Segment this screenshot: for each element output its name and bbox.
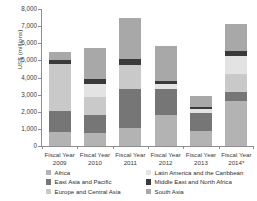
y-tick-label: 7,000 — [3, 23, 37, 29]
legend-item[interactable]: Middle East and North Africa — [146, 177, 243, 186]
bar-segment — [190, 131, 212, 146]
bar-segment — [190, 96, 212, 107]
bar-segment — [225, 101, 247, 146]
bar-segment — [84, 115, 106, 133]
x-tick-label: Fiscal Year2014* — [214, 151, 257, 166]
y-tick-mark — [38, 60, 41, 61]
y-tick-mark — [38, 112, 41, 113]
legend-item[interactable]: East Asia and Pacific — [46, 177, 121, 186]
y-tick-mark — [38, 26, 41, 27]
bar-segment — [119, 89, 141, 128]
y-tick-mark — [38, 129, 41, 130]
legend-swatch-icon — [146, 170, 151, 175]
bar-segment — [155, 46, 177, 81]
x-tick-mark — [77, 146, 78, 149]
legend-label: Africa — [55, 169, 71, 176]
legend-column-left: AfricaEast Asia and PacificEurope and Ce… — [46, 168, 121, 196]
bar-segment — [84, 84, 106, 97]
legend-column-right: Latin America and the CaribbeanMiddle Ea… — [146, 168, 243, 196]
bar-segment — [225, 24, 247, 51]
bar-segment — [49, 132, 71, 146]
bar-segment — [84, 48, 106, 80]
bar-segment — [119, 18, 141, 59]
y-tick-mark — [38, 43, 41, 44]
bar-segment — [84, 133, 106, 146]
x-label-line1: Fiscal Year — [221, 151, 251, 158]
bar-3[interactable] — [155, 46, 177, 146]
x-tick-mark — [253, 146, 254, 149]
bar-segment — [119, 128, 141, 146]
legend-swatch-icon — [46, 179, 51, 184]
bar-segment — [225, 92, 247, 101]
bar-segment — [225, 74, 247, 92]
bar-segment — [190, 113, 212, 131]
legend-label: Latin America and the Caribbean — [155, 169, 244, 176]
legend-swatch-icon — [146, 179, 151, 184]
bar-4[interactable] — [190, 96, 212, 146]
y-tick-mark — [38, 146, 41, 147]
bar-1[interactable] — [84, 48, 106, 146]
y-tick-mark — [38, 95, 41, 96]
x-label-line1: Fiscal Year — [45, 151, 75, 158]
legend-item[interactable]: Latin America and the Caribbean — [146, 168, 243, 177]
stacked-bar-chart: US$ (millions) 8,0007,0006,0005,0004,000… — [0, 0, 257, 201]
y-axis-title: US$ (millions) — [16, 5, 23, 95]
y-tick-mark — [38, 9, 41, 10]
x-label-line1: Fiscal Year — [151, 151, 181, 158]
legend-swatch-icon — [146, 189, 151, 194]
legend-item[interactable]: Europe and Central Asia — [46, 187, 121, 196]
bar-segment — [49, 52, 71, 61]
y-tick-mark — [38, 78, 41, 79]
legend-swatch-icon — [46, 189, 51, 194]
x-label-line1: Fiscal Year — [115, 151, 145, 158]
legend-label: East Asia and Pacific — [55, 178, 112, 185]
legend-item[interactable]: South Asia — [146, 187, 243, 196]
bar-segment — [49, 111, 71, 132]
x-tick-mark — [183, 146, 184, 149]
y-axis-line — [41, 9, 42, 147]
chart-legend: AfricaEast Asia and PacificEurope and Ce… — [41, 168, 255, 198]
x-tick-mark — [148, 146, 149, 149]
y-tick-label: 0 — [3, 143, 37, 149]
bar-segment — [84, 97, 106, 115]
x-label-line1: Fiscal Year — [186, 151, 216, 158]
y-tick-label: 3,000 — [3, 92, 37, 98]
bar-5[interactable] — [225, 24, 247, 146]
legend-item[interactable]: Africa — [46, 168, 121, 177]
bar-segment — [49, 64, 71, 111]
legend-label: South Asia — [155, 188, 184, 195]
x-label-line1: Fiscal Year — [80, 151, 110, 158]
x-tick-mark — [42, 146, 43, 149]
bar-segment — [155, 89, 177, 116]
bar-segment — [155, 115, 177, 146]
bar-segment — [119, 65, 141, 89]
x-label-line2: 2014* — [214, 159, 257, 167]
legend-label: Europe and Central Asia — [55, 188, 121, 195]
bar-2[interactable] — [119, 18, 141, 146]
x-axis-line — [41, 146, 253, 147]
y-tick-label: 4,000 — [3, 75, 37, 81]
legend-swatch-icon — [46, 170, 51, 175]
plot-area: 8,0007,0006,0005,0004,0003,0002,0001,000… — [41, 9, 253, 147]
y-tick-label: 1,000 — [3, 126, 37, 132]
x-tick-mark — [219, 146, 220, 149]
y-tick-label: 5,000 — [3, 57, 37, 63]
bar-segment — [225, 56, 247, 74]
bar-0[interactable] — [49, 52, 71, 146]
y-tick-label: 2,000 — [3, 109, 37, 115]
x-tick-mark — [113, 146, 114, 149]
y-tick-label: 8,000 — [3, 6, 37, 12]
y-tick-label: 6,000 — [3, 40, 37, 46]
legend-label: Middle East and North Africa — [155, 178, 232, 185]
